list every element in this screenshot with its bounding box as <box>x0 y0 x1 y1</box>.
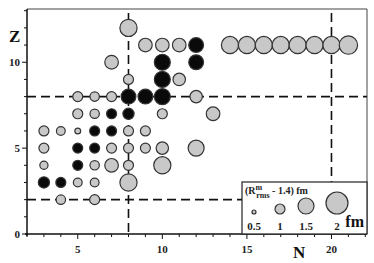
open-bubble <box>123 160 133 170</box>
open-bubble <box>120 19 137 36</box>
open-bubble <box>139 38 153 52</box>
open-bubble <box>172 38 186 52</box>
open-bubble <box>39 143 49 153</box>
open-bubble <box>90 161 99 170</box>
open-bubble <box>56 127 65 136</box>
open-bubble <box>157 109 167 119</box>
filled-bubble <box>138 89 153 104</box>
open-bubble <box>154 157 171 174</box>
open-bubble <box>90 109 99 118</box>
open-bubble <box>190 90 202 102</box>
open-bubble <box>73 178 82 187</box>
open-bubble <box>73 92 83 102</box>
legend-size-label: 2 <box>334 220 340 232</box>
legend-size-label: 1.5 <box>299 220 313 232</box>
filled-bubble <box>154 71 170 87</box>
y-axis-label: Z <box>9 27 20 46</box>
open-bubble <box>107 143 117 153</box>
filled-bubble <box>121 89 136 104</box>
legend-unit-label: fm <box>345 213 364 230</box>
open-bubble <box>105 158 119 172</box>
x-tick-label: 10 <box>157 243 169 255</box>
open-bubble <box>289 36 306 53</box>
legend-bubble-0.5 <box>252 210 256 214</box>
legend: (Rmrms - 1.4) fm0.511.52fm <box>242 182 367 234</box>
open-bubble <box>39 126 49 136</box>
y-tick-label: 0 <box>15 228 21 240</box>
open-bubble <box>188 140 204 156</box>
x-axis-label: N <box>293 243 306 262</box>
y-tick-label: 10 <box>9 56 21 68</box>
y-tick-label: 5 <box>15 142 21 154</box>
open-bubble <box>90 178 99 187</box>
filled-bubble <box>73 160 83 170</box>
legend-bubble-1 <box>275 204 285 214</box>
open-bubble <box>156 38 170 52</box>
open-bubble <box>173 73 185 85</box>
filled-bubble <box>90 143 100 153</box>
x-tick-label: 20 <box>326 243 338 255</box>
filled-bubble <box>107 126 117 136</box>
open-bubble <box>140 143 150 153</box>
x-tick-label: 15 <box>241 243 253 255</box>
open-bubble <box>272 36 289 53</box>
filled-bubble <box>90 126 100 136</box>
open-bubble <box>90 195 100 205</box>
legend-bubble-2 <box>326 192 348 214</box>
open-bubble <box>107 92 117 102</box>
data-bubbles <box>38 19 357 204</box>
bubble-chart: 51015200510 (Rmrms - 1.4) fm0.511.52fm Z… <box>0 0 374 263</box>
filled-bubble <box>56 177 66 187</box>
open-bubble <box>238 36 255 53</box>
filled-bubble <box>154 54 170 70</box>
filled-bubble <box>123 108 134 119</box>
open-bubble <box>40 161 48 169</box>
filled-bubble <box>189 38 204 53</box>
filled-bubble <box>189 55 204 70</box>
legend-bubble-1.5 <box>298 198 314 214</box>
filled-bubble <box>107 109 117 119</box>
legend-size-label: 1 <box>277 220 283 232</box>
open-bubble <box>206 107 220 121</box>
open-bubble <box>75 128 81 134</box>
open-bubble <box>123 143 133 153</box>
legend-size-label: 0.5 <box>247 220 261 232</box>
open-bubble <box>105 55 119 69</box>
filled-bubble <box>73 143 83 153</box>
x-tick-label: 5 <box>75 243 81 255</box>
open-bubble <box>90 92 99 101</box>
open-bubble <box>255 36 272 53</box>
open-bubble <box>73 109 83 119</box>
open-bubble <box>339 36 357 54</box>
open-bubble <box>56 195 65 204</box>
open-bubble <box>123 126 133 136</box>
open-bubble <box>221 36 238 53</box>
open-bubble <box>156 142 168 154</box>
filled-bubble <box>154 89 170 105</box>
open-bubble <box>120 174 137 191</box>
open-bubble <box>306 36 323 53</box>
open-bubble <box>140 126 150 136</box>
filled-bubble <box>38 177 49 188</box>
open-bubble <box>123 74 133 84</box>
open-bubble <box>323 36 340 53</box>
